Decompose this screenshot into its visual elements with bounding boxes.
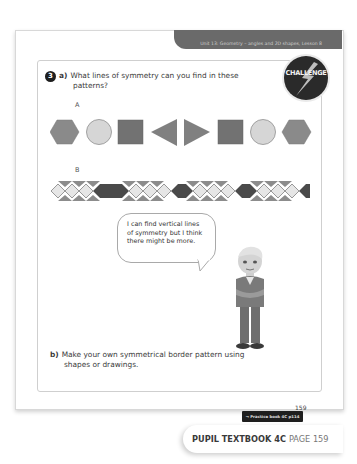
footer-page-tab: PUPIL TEXTBOOK 4CPAGE 159: [183, 425, 343, 453]
triangle-right-shape: [184, 119, 210, 146]
unit-header-bar: Unit 13: Geometry – angles and 2D shapes…: [174, 30, 342, 49]
hexagon-shape: [282, 120, 311, 144]
book-title: PUPIL TEXTBOOK 4C: [192, 434, 286, 444]
pattern-a-shapes: [50, 118, 350, 148]
challenge-label: CHALLENGE: [284, 69, 328, 77]
part-a-question: a)What lines of symmetry can you find in…: [59, 71, 239, 91]
child-character-illustration: [228, 245, 278, 355]
square-shape: [118, 120, 143, 144]
part-b-text-line2: shapes or drawings.: [50, 360, 244, 370]
page-label: PAGE 159: [289, 434, 329, 444]
question-number-badge: 3: [45, 71, 56, 82]
page-number: 159: [295, 404, 306, 411]
part-a-letter: a): [59, 71, 67, 80]
part-b-letter: b): [50, 350, 59, 359]
practice-book-link[interactable]: → Practice book 4C p114: [242, 411, 303, 422]
speech-bubble-tail: [196, 259, 216, 273]
part-a-text-line1: What lines of symmetry can you find in t…: [70, 71, 238, 80]
speech-bubble: I can find vertical lines of symmetry bu…: [117, 213, 216, 263]
pattern-a-label: A: [75, 101, 79, 109]
square-shape: [218, 120, 243, 144]
speech-line3: there might be more.: [127, 237, 211, 246]
challenge-badge: CHALLENGE: [284, 56, 328, 100]
pattern-b-label: B: [75, 166, 79, 174]
part-a-text-line2: patterns?: [59, 81, 239, 91]
part-b-text-line1: Make your own symmetrical border pattern…: [62, 350, 245, 359]
lightning-bolt-icon: [284, 56, 328, 100]
circle-shape: [251, 120, 276, 145]
part-b-question: b)Make your own symmetrical border patte…: [50, 350, 244, 370]
speech-line1: I can find vertical lines: [127, 220, 211, 229]
triangle-left-shape: [151, 119, 177, 146]
pattern-b-border: [50, 181, 310, 201]
circle-shape: [87, 120, 112, 145]
hexagon-shape: [50, 120, 79, 144]
speech-line2: of symmetry but I think: [127, 229, 211, 238]
unit-title: Unit 13: Geometry – angles and 2D shapes…: [200, 41, 322, 46]
